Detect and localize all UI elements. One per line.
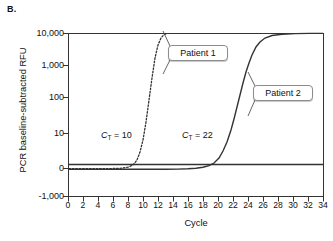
y-axis-ticks (63, 34, 69, 197)
x-axis-ticks (69, 197, 324, 202)
ct-subscript: T (189, 134, 193, 141)
ct-value: = 10 (111, 130, 131, 140)
callout-patient-2: Patient 2 (253, 85, 313, 101)
plot-area (0, 0, 333, 241)
ct-subscript: T (108, 134, 112, 141)
ct-symbol: C (101, 130, 108, 140)
ct-annotation-patient-1: CT = 10 (101, 130, 132, 140)
ct-symbol: C (182, 130, 189, 140)
figure-panel-b: B. PCR baseline-subtracted RFU Cycle 10,… (0, 0, 333, 241)
ct-value: = 22 (192, 130, 212, 140)
callout-patient-1: Patient 1 (168, 45, 228, 61)
ct-annotation-patient-2: CT = 22 (182, 130, 213, 140)
